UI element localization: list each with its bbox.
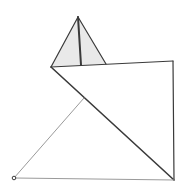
geometry-diagram bbox=[0, 0, 185, 190]
diagram-background bbox=[0, 0, 185, 190]
point-markers bbox=[12, 176, 16, 180]
point-marker-bottom_left bbox=[12, 176, 16, 180]
